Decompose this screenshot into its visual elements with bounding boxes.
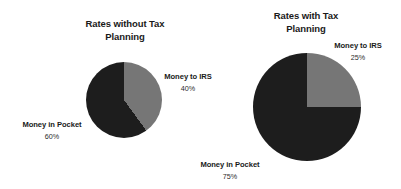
right-chart-title: Rates with Tax Planning: [240, 9, 372, 35]
pie-chart-figure: Rates without Tax Planning Money to IRS …: [0, 0, 401, 189]
left-label-money-in-pocket: Money in Pocket 60%: [12, 119, 92, 143]
right-chart-title-line1: Rates with Tax: [274, 10, 338, 21]
left-chart-title: Rates without Tax Planning: [55, 17, 195, 43]
right-label-money-to-irs-value: 25%: [318, 52, 398, 64]
left-label-money-in-pocket-name: Money in Pocket: [12, 119, 92, 131]
right-label-money-in-pocket-value: 75%: [185, 171, 275, 183]
left-label-money-to-irs-value: 40%: [152, 83, 224, 95]
right-label-money-in-pocket: Money in Pocket 75%: [185, 159, 275, 183]
right-label-money-in-pocket-name: Money in Pocket: [185, 159, 275, 171]
left-chart-title-line1: Rates without Tax: [86, 18, 165, 29]
right-pie-chart: [253, 53, 361, 161]
left-label-money-in-pocket-value: 60%: [12, 131, 92, 143]
left-chart-title-line2: Planning: [105, 31, 144, 42]
left-label-money-to-irs-name: Money to IRS: [152, 71, 224, 83]
left-label-money-to-irs: Money to IRS 40%: [152, 71, 224, 95]
left-pie-chart: [86, 62, 162, 138]
right-label-money-to-irs: Money to IRS 25%: [318, 40, 398, 64]
right-label-money-to-irs-name: Money to IRS: [318, 40, 398, 52]
right-chart-title-line2: Planning: [286, 23, 325, 34]
